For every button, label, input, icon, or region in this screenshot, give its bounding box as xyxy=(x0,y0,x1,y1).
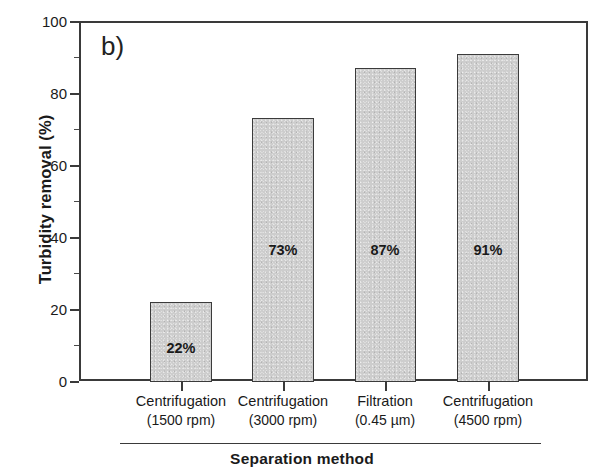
x-category-3-main: Filtration xyxy=(357,393,413,409)
y-tick-label-40: 40 xyxy=(7,230,67,245)
chart-figure: Turbidity removal (%) 100 80 60 40 20 0 … xyxy=(0,0,604,472)
y-tick-major-20 xyxy=(70,309,79,311)
bar-value-4: 91% xyxy=(453,243,523,258)
y-tick-major-40 xyxy=(70,237,79,239)
x-category-4-sub: (4500 rpm) xyxy=(420,411,556,430)
x-tick-4 xyxy=(488,381,490,391)
x-category-1-main: Centrifugation xyxy=(136,393,226,409)
bar-centrifugation-4500rpm xyxy=(457,54,519,382)
bar-filtration-045um xyxy=(355,68,416,382)
y-tick-label-60: 60 xyxy=(7,158,67,173)
x-category-4-main: Centrifugation xyxy=(443,393,533,409)
x-category-4: Centrifugation (4500 rpm) xyxy=(420,392,556,430)
y-tick-label-100: 100 xyxy=(7,14,67,29)
y-tick-major-100 xyxy=(70,21,79,23)
x-tick-3 xyxy=(385,381,387,391)
y-tick-major-0 xyxy=(70,381,79,383)
x-category-2-main: Centrifugation xyxy=(238,393,328,409)
panel-letter: b) xyxy=(101,33,124,59)
bar-value-1: 22% xyxy=(146,341,216,356)
x-tick-1 xyxy=(181,381,183,391)
y-tick-major-60 xyxy=(70,165,79,167)
y-tick-label-0: 0 xyxy=(7,374,67,389)
x-axis-group-rule xyxy=(120,443,541,444)
x-tick-2 xyxy=(283,381,285,391)
y-tick-label-80: 80 xyxy=(7,86,67,101)
x-axis-title: Separation method xyxy=(0,450,604,468)
y-tick-label-20: 20 xyxy=(7,302,67,317)
y-tick-major-80 xyxy=(70,93,79,95)
bar-value-2: 73% xyxy=(248,243,318,258)
bar-value-3: 87% xyxy=(350,243,420,258)
